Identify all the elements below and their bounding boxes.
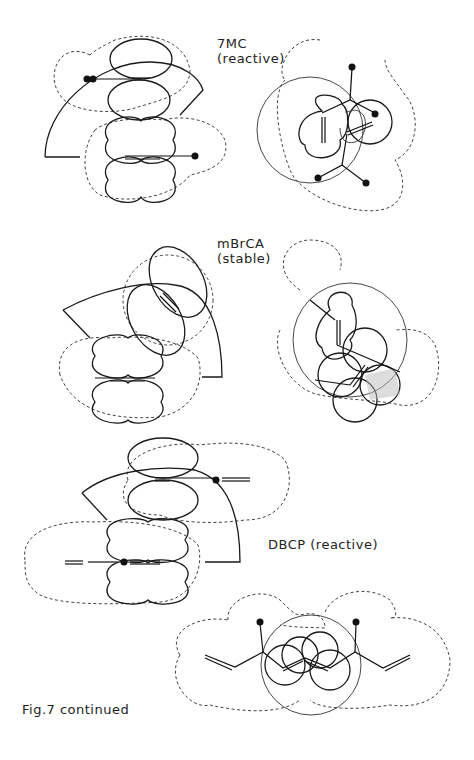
diagram-7mc-side-view [45, 36, 226, 202]
molecular-overlap-figure [0, 0, 474, 760]
diagram-mbrca-side-view [59, 237, 222, 424]
diagram-dbcp-top-view [175, 591, 450, 715]
diagram-dbcp-side-view [25, 438, 290, 604]
diagram-7mc-top-view [257, 40, 415, 211]
diagram-mbrca-top-view [277, 240, 438, 422]
